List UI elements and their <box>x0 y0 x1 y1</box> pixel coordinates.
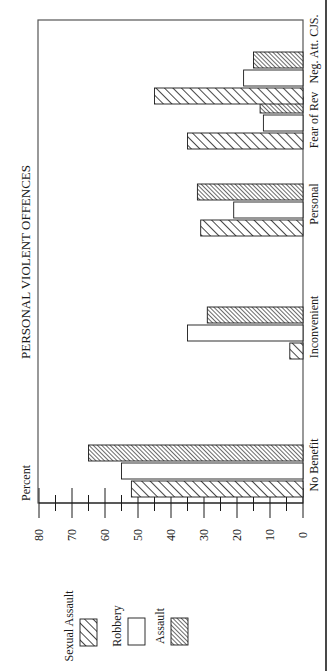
bar-assault <box>197 184 303 200</box>
tick-label: 70 <box>65 529 79 541</box>
bar-sexual-assault <box>201 220 303 236</box>
bar-robbery <box>234 202 303 218</box>
bar-sexual-assault <box>131 481 303 497</box>
bars-group <box>89 52 304 497</box>
tick-label: 0 <box>296 532 310 538</box>
tick-label: 60 <box>98 529 112 541</box>
bar-sexual-assault <box>290 343 303 359</box>
axis-title: Percent <box>19 464 33 501</box>
category-label: Fear of Rev <box>307 92 321 149</box>
legend-label: Sexual Assault <box>62 590 76 662</box>
legend: Sexual AssaultRobberyAssault <box>62 590 188 662</box>
bar-robbery <box>244 70 303 86</box>
bar-assault <box>89 445 304 461</box>
legend-item: Assault <box>153 607 188 645</box>
category-labels: No BenefitInconvenientPersonalFear of Re… <box>307 14 321 491</box>
legend-swatch <box>80 619 97 646</box>
bar-robbery <box>122 463 304 479</box>
legend-swatch <box>171 618 188 645</box>
legend-item: Sexual Assault <box>62 590 97 662</box>
chart-title: PERSONAL VIOLENT OFFENCES <box>18 165 33 359</box>
category-label: Inconvenient <box>307 295 321 358</box>
category-label: Neg. Att. CJS. <box>307 14 321 83</box>
bar-sexual-assault <box>188 133 304 149</box>
bar-assault <box>207 307 303 323</box>
tick-label: 80 <box>32 529 46 541</box>
tick-label: 40 <box>164 529 178 541</box>
category-label: No Benefit <box>307 438 321 492</box>
category-label: Personal <box>307 183 321 225</box>
legend-item: Robbery <box>110 605 145 646</box>
tick-label: 30 <box>197 529 211 541</box>
bar-sexual-assault <box>155 88 304 104</box>
bar-robbery <box>263 115 303 131</box>
tick-label: 10 <box>263 529 277 541</box>
legend-label: Assault <box>153 607 167 644</box>
legend-swatch <box>128 618 145 645</box>
legend-label: Robbery <box>110 605 124 646</box>
tick-label: 20 <box>230 529 244 541</box>
bar-chart: PERSONAL VIOLENT OFFENCES 01020304050607… <box>0 0 330 671</box>
tick-label: 50 <box>131 529 145 541</box>
bar-assault <box>254 52 304 68</box>
bar-robbery <box>188 325 304 341</box>
chart-stage: PERSONAL VIOLENT OFFENCES 01020304050607… <box>0 0 330 671</box>
